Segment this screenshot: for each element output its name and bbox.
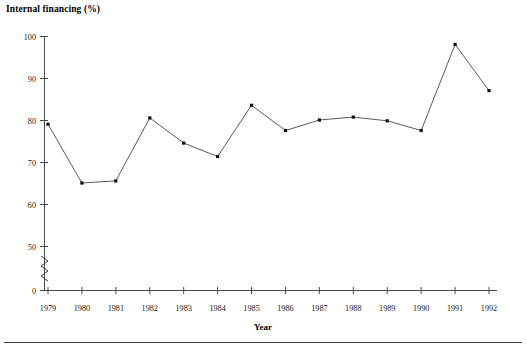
x-tick-label: 1980 xyxy=(74,304,90,313)
data-point-marker xyxy=(318,118,321,121)
data-point-marker xyxy=(352,116,355,119)
data-point-marker xyxy=(284,129,287,132)
x-tick-label: 1988 xyxy=(345,304,361,313)
x-tick-label: 1990 xyxy=(413,304,429,313)
x-axis-title: Year xyxy=(0,322,526,332)
x-tick-label: 1987 xyxy=(311,304,327,313)
x-axis-tick-labels: 1979198019811982198319841985198619871988… xyxy=(40,304,497,313)
y-tick-label: 100 xyxy=(24,33,36,42)
y-tick-label: 60 xyxy=(28,201,36,210)
x-tick-label: 1983 xyxy=(176,304,192,313)
chart-figure: Internal financing (%) 100 90 80 70 60 5… xyxy=(0,0,526,349)
data-point-marker xyxy=(80,181,83,184)
data-point-marker xyxy=(114,179,117,182)
data-point-marker xyxy=(148,116,151,119)
y-axis-tick-labels: 100 90 80 70 60 50 0 xyxy=(24,33,36,296)
y-tick-label: 70 xyxy=(28,159,36,168)
data-series-markers xyxy=(46,43,490,185)
data-series-line xyxy=(48,44,489,183)
x-tick-label: 1985 xyxy=(243,304,259,313)
x-tick-label: 1991 xyxy=(447,304,463,313)
data-point-marker xyxy=(46,123,49,126)
data-point-marker xyxy=(386,119,389,122)
x-tick-label: 1986 xyxy=(277,304,293,313)
data-point-marker xyxy=(182,142,185,145)
x-tick-label: 1981 xyxy=(108,304,124,313)
data-point-marker xyxy=(487,89,490,92)
x-tick-label: 1992 xyxy=(481,304,497,313)
y-tick-label: 50 xyxy=(28,243,36,252)
y-tick-label: 0 xyxy=(32,287,36,296)
x-tick-label: 1979 xyxy=(40,304,56,313)
x-tick-label: 1982 xyxy=(142,304,158,313)
line-chart-plot: 100 90 80 70 60 50 0 1979198019811982198… xyxy=(0,0,526,349)
y-tick-label: 90 xyxy=(28,75,36,84)
data-point-marker xyxy=(250,104,253,107)
y-tick-label: 80 xyxy=(28,117,36,126)
data-point-marker xyxy=(216,155,219,158)
data-point-marker xyxy=(454,43,457,46)
x-tick-label: 1989 xyxy=(379,304,395,313)
x-tick-label: 1984 xyxy=(209,304,225,313)
data-point-marker xyxy=(420,129,423,132)
bottom-divider xyxy=(4,342,522,343)
